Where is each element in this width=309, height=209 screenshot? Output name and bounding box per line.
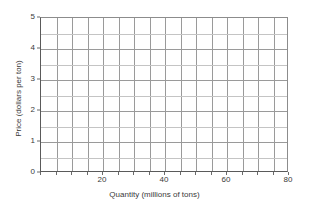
x-axis-ticks: 20406080: [0, 0, 309, 209]
x-tick-mark: [71, 172, 72, 175]
x-tick-mark: [195, 172, 196, 175]
x-tick-mark: [242, 172, 243, 175]
x-tick-label: 20: [98, 176, 107, 184]
x-tick-label: 40: [160, 176, 169, 184]
x-axis-title: Quantity (millions of tons): [0, 190, 309, 199]
x-tick-label: 60: [222, 176, 231, 184]
x-tick-mark: [118, 172, 119, 175]
x-tick-mark: [56, 172, 57, 175]
x-tick-mark: [257, 172, 258, 175]
x-tick-mark: [211, 172, 212, 175]
x-tick-mark: [87, 172, 88, 175]
x-tick-mark: [180, 172, 181, 175]
x-tick-mark: [40, 172, 41, 175]
x-tick-mark: [133, 172, 134, 175]
x-tick-mark: [149, 172, 150, 175]
x-tick-label: 80: [284, 176, 293, 184]
x-tick-mark: [273, 172, 274, 175]
chart-figure: 012345 Price (dollars per ton) 20406080 …: [0, 0, 309, 209]
